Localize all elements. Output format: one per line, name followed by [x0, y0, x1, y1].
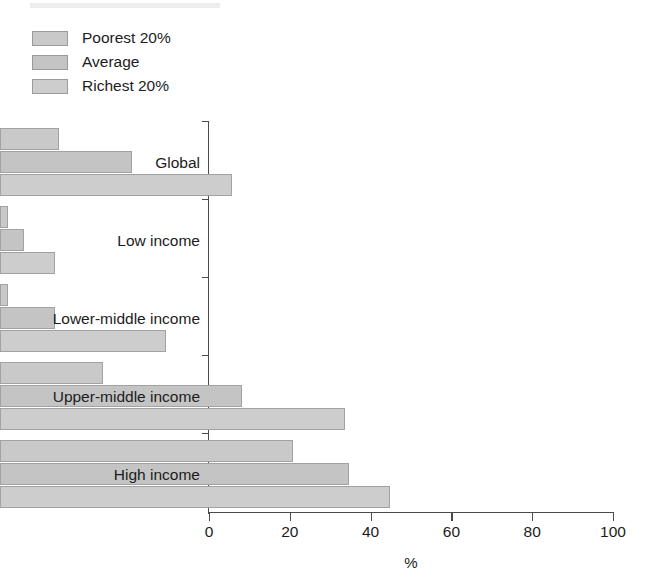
y-axis-label-global: Global	[4, 155, 200, 171]
x-axis-tick	[532, 513, 533, 521]
x-axis-tick-label: 0	[205, 524, 214, 540]
y-axis-tick	[202, 277, 209, 278]
x-axis-tick-label: 80	[524, 524, 541, 540]
y-axis-label-upper-middle-income: Upper-middle income	[4, 389, 200, 405]
y-axis-label-lower-middle-income: Lower-middle income	[4, 311, 200, 327]
x-axis-line	[209, 512, 614, 513]
x-axis-tick	[371, 513, 372, 521]
x-axis-tick-label: 60	[443, 524, 460, 540]
y-axis-category-labels: GlobalLow incomeLower-middle incomeUpper…	[0, 0, 200, 586]
bar-chart: GlobalLow incomeLower-middle incomeUpper…	[0, 0, 652, 586]
x-axis-tick-label: 40	[362, 524, 379, 540]
x-axis-tick	[209, 513, 210, 521]
x-axis-tick-label: 100	[600, 524, 626, 540]
y-axis-tick	[202, 433, 209, 434]
x-axis-tick	[613, 513, 614, 521]
x-axis-tick-label: 20	[281, 524, 298, 540]
y-axis-label-low-income: Low income	[4, 233, 200, 249]
y-axis-label-high-income: High income	[4, 467, 200, 483]
x-axis-tick	[290, 513, 291, 521]
x-axis-title: %	[404, 554, 417, 571]
y-axis-tick	[202, 121, 209, 122]
y-axis-tick	[202, 199, 209, 200]
y-axis-tick	[202, 355, 209, 356]
x-axis-tick	[451, 513, 452, 521]
